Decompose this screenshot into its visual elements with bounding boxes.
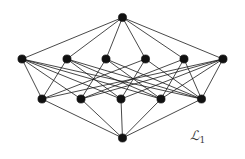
graph-edge bbox=[123, 18, 224, 60]
hasse-diagram-figure: ℒ1 bbox=[0, 0, 245, 159]
graph-node bbox=[117, 95, 125, 103]
graph-edge bbox=[22, 59, 161, 99]
graph-edge bbox=[42, 59, 67, 99]
graph-edge bbox=[161, 59, 223, 99]
graph-edge bbox=[123, 99, 162, 138]
figure-label-symbol: ℒ bbox=[190, 128, 199, 143]
graph-edge bbox=[202, 59, 224, 99]
graph-node bbox=[118, 13, 126, 21]
figure-label-subscript: 1 bbox=[199, 135, 205, 145]
edge-layer bbox=[22, 18, 223, 139]
graph-node bbox=[77, 95, 85, 103]
graph-node bbox=[38, 95, 46, 103]
graph-edge bbox=[121, 59, 223, 99]
graph-edge bbox=[22, 18, 123, 60]
graph-edge bbox=[123, 18, 185, 60]
graph-edge bbox=[22, 59, 42, 99]
graph-node bbox=[180, 55, 188, 63]
graph-node bbox=[118, 134, 126, 142]
graph-node bbox=[18, 55, 26, 63]
figure-label: ℒ1 bbox=[190, 128, 205, 145]
graph-edge bbox=[42, 59, 146, 99]
graph-node bbox=[63, 55, 71, 63]
graph-node bbox=[102, 55, 110, 63]
graph-edge bbox=[42, 59, 223, 99]
graph-node bbox=[157, 95, 165, 103]
hasse-diagram-canvas bbox=[0, 0, 245, 159]
graph-edge bbox=[81, 99, 123, 138]
graph-edge bbox=[123, 18, 146, 60]
graph-node bbox=[197, 95, 205, 103]
graph-node bbox=[141, 55, 149, 63]
graph-edge bbox=[22, 59, 202, 99]
graph-node bbox=[219, 55, 227, 63]
graph-edge bbox=[121, 99, 123, 138]
graph-edge bbox=[67, 59, 202, 99]
graph-edge bbox=[42, 99, 123, 138]
